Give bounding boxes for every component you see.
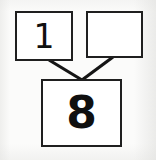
number-bond-scan-sheet: 1 8: [0, 0, 156, 160]
whole-value: 8: [41, 79, 122, 147]
part-right-value: [86, 11, 143, 58]
part-left-value: 1: [15, 11, 73, 61]
connector-right-line: [82, 57, 113, 80]
connector-left-line: [49, 60, 82, 80]
